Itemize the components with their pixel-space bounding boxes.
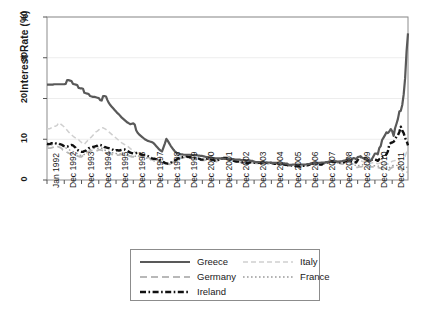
x-tick-dec-1993: Dec 1993 <box>86 152 96 188</box>
legend-label-germany: Germany <box>197 271 236 282</box>
chart-figure: Interest Rate (%) 010203040 Jan 1992Dec … <box>0 0 422 319</box>
y-tick-40: 40 <box>19 5 29 27</box>
x-tick-dec-2011: Dec 2011 <box>396 152 406 188</box>
x-tick-dec-2005: Dec 2005 <box>293 152 303 188</box>
legend-swatch-greece <box>139 257 191 267</box>
legend-label-france: France <box>300 271 330 282</box>
x-tick-dec-1995: Dec 1995 <box>120 152 130 188</box>
x-tick-dec-1996: Dec 1996 <box>137 152 147 188</box>
legend-label-ireland: Ireland <box>197 286 236 297</box>
x-tick-dec-2007: Dec 2007 <box>327 152 337 188</box>
legend-swatch-ireland <box>139 287 191 297</box>
x-tick-dec-2002: Dec 2002 <box>241 152 251 188</box>
x-tick-jan-1992: Jan 1992 <box>51 153 61 188</box>
x-tick-dec-2010: Dec 2010 <box>379 152 389 188</box>
x-tick-dec-2003: Dec 2003 <box>258 152 268 188</box>
y-tick-0: 0 <box>19 168 29 190</box>
x-tick-dec-2008: Dec 2008 <box>344 152 354 188</box>
legend-label-greece: Greece <box>197 256 236 267</box>
legend-label-italy: Italy <box>300 256 330 267</box>
y-tick-20: 20 <box>19 87 29 109</box>
legend-swatch-italy <box>242 257 294 267</box>
x-tick-dec-1998: Dec 1998 <box>172 152 182 188</box>
legend-swatch-france <box>242 272 294 282</box>
y-tick-10: 10 <box>19 127 29 149</box>
x-tick-dec-2001: Dec 2001 <box>224 152 234 188</box>
x-tick-dec-2004: Dec 2004 <box>275 152 285 188</box>
x-tick-dec-1994: Dec 1994 <box>103 152 113 188</box>
x-tick-dec-1992: Dec 1992 <box>68 152 78 188</box>
legend-swatch-germany <box>139 272 191 282</box>
chart-legend: GreeceItalyGermanyFranceIreland <box>130 249 320 301</box>
y-tick-30: 30 <box>19 46 29 68</box>
x-tick-dec-2000: Dec 2000 <box>206 152 216 188</box>
x-tick-dec-1999: Dec 1999 <box>189 152 199 188</box>
x-tick-dec-2009: Dec 2009 <box>362 152 372 188</box>
x-tick-dec-2006: Dec 2006 <box>310 152 320 188</box>
x-tick-dec-1997: Dec 1997 <box>155 152 165 188</box>
